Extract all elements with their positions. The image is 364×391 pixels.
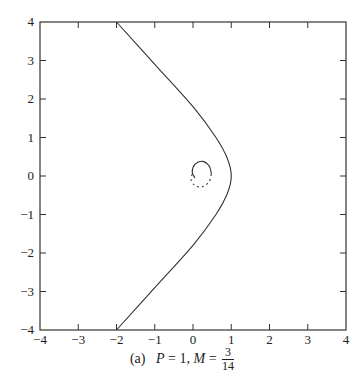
x-tick-label: −3 — [71, 332, 85, 347]
figure-caption: (a) P = 1, M = 3 14 — [0, 346, 364, 373]
y-tick-label: 4 — [28, 14, 35, 29]
fraction-denominator: 14 — [222, 360, 234, 373]
caption-fraction: 3 14 — [222, 346, 234, 373]
x-tick-label: 4 — [343, 332, 350, 347]
curves — [117, 22, 232, 330]
y-tick-label: −3 — [20, 284, 34, 299]
y-tick-label: 3 — [28, 53, 35, 68]
y-tick-label: −2 — [20, 245, 34, 260]
x-tick-label: −1 — [148, 332, 162, 347]
curve-solid — [117, 22, 232, 330]
curve-solid — [192, 161, 211, 178]
caption-p: P — [156, 351, 165, 366]
axis-ticks — [40, 22, 346, 330]
caption-m: M — [193, 351, 205, 366]
y-tick-label: 1 — [28, 130, 35, 145]
y-tick-label: −4 — [20, 322, 34, 337]
y-tick-label: −1 — [20, 207, 34, 222]
caption-p-value: = 1, — [168, 351, 190, 366]
caption-m-eq: = — [209, 351, 217, 366]
x-tick-label: −2 — [110, 332, 124, 347]
y-tick-label: 0 — [28, 168, 35, 183]
x-tick-label: 3 — [305, 332, 312, 347]
fraction-numerator: 3 — [222, 346, 234, 360]
tick-labels: −4−3−2−101234−4−3−2−101234 — [20, 14, 350, 347]
x-tick-label: 2 — [266, 332, 273, 347]
y-tick-label: 2 — [28, 91, 35, 106]
plot-frame — [40, 22, 346, 330]
x-tick-label: 0 — [190, 332, 197, 347]
phase-plot: −4−3−2−101234−4−3−2−101234 — [0, 0, 364, 391]
x-tick-label: −4 — [33, 332, 47, 347]
caption-label: (a) — [130, 351, 146, 366]
